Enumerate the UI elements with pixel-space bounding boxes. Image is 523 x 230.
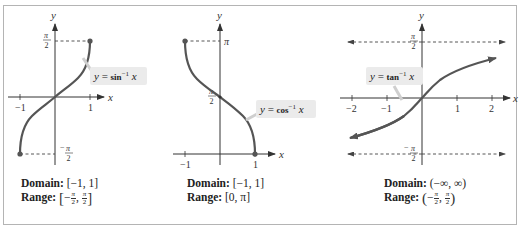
range-value: Range: (−π2, π2) <box>384 190 466 206</box>
svg-text:π: π <box>411 144 416 153</box>
x-tick-neg1: −1 <box>381 103 392 114</box>
svg-text:2: 2 <box>210 97 214 106</box>
domain-label: Domain: <box>384 177 427 189</box>
svg-text:y = sin−1 x: y = sin−1 x <box>93 70 137 82</box>
y-tick-pi-over-2: π 2 <box>410 32 418 51</box>
svg-text:π: π <box>411 32 416 41</box>
y-tick-pi-over-2: π 2 <box>43 31 51 50</box>
range-value: [0, π] <box>225 191 250 203</box>
x-tick-neg1: −1 <box>15 102 26 113</box>
x-axis-label: x <box>107 91 113 103</box>
arccos-caption: Domain: [−1, 1] Range: [0, π] <box>187 176 264 204</box>
arccos-graph: x y −1 1 π π 2 y = cos−1 x <box>173 9 316 170</box>
y-axis-label: y <box>216 9 222 21</box>
domain-value: [−1, 1] <box>67 177 98 189</box>
domain-value: (−∞, ∞) <box>430 177 466 189</box>
svg-text:y = tan−1 x: y = tan−1 x <box>369 70 414 82</box>
arcsin-graph: x y −1 1 π 2 − π 2 y = sin−1 x <box>8 9 147 165</box>
svg-text:π: π <box>44 31 49 40</box>
x-tick-1: 1 <box>88 102 93 113</box>
domain-label: Domain: <box>187 177 230 189</box>
y-tick-neg-pi-over-2: − π 2 <box>60 143 73 163</box>
svg-text:−: − <box>404 143 409 152</box>
x-axis-label: x <box>278 148 284 160</box>
x-tick-neg1: −1 <box>180 159 191 170</box>
svg-text:y = cos−1 x: y = cos−1 x <box>259 103 304 115</box>
domain-label: Domain: <box>21 177 64 189</box>
svg-text:2: 2 <box>412 42 416 51</box>
domain-value: [−1, 1] <box>233 177 264 189</box>
x-tick-1: 1 <box>455 103 460 114</box>
arctan-caption: Domain: (−∞, ∞) Range: (−π2, π2) <box>384 176 466 206</box>
y-tick-pi: π <box>224 36 230 47</box>
svg-text:2: 2 <box>412 154 416 163</box>
x-tick-2: 2 <box>489 103 494 114</box>
svg-text:2: 2 <box>45 41 49 50</box>
arccos-label: y = cos−1 x <box>246 100 316 120</box>
arcsin-caption: Domain: [−1, 1] Range: [−π2, π2] <box>21 176 98 206</box>
svg-text:2: 2 <box>67 154 71 163</box>
range-value: Range: [−π2, π2] <box>21 190 98 206</box>
y-axis-label: y <box>418 9 424 21</box>
range-label: Range: <box>187 191 222 203</box>
svg-text:π: π <box>66 144 71 153</box>
arctan-graph: x y −2 −1 1 2 π 2 − π 2 y = tan <box>340 9 518 165</box>
arctan-label: y = tan−1 x <box>366 67 423 100</box>
x-tick-1: 1 <box>253 159 258 170</box>
y-tick-neg-pi-over-2: − π 2 <box>404 143 418 163</box>
x-tick-neg2: −2 <box>346 103 357 114</box>
y-axis-label: y <box>50 9 56 21</box>
svg-text:−: − <box>60 143 65 152</box>
arcsin-label: y = sin−1 x <box>83 58 147 85</box>
x-axis-label: x <box>512 92 518 104</box>
